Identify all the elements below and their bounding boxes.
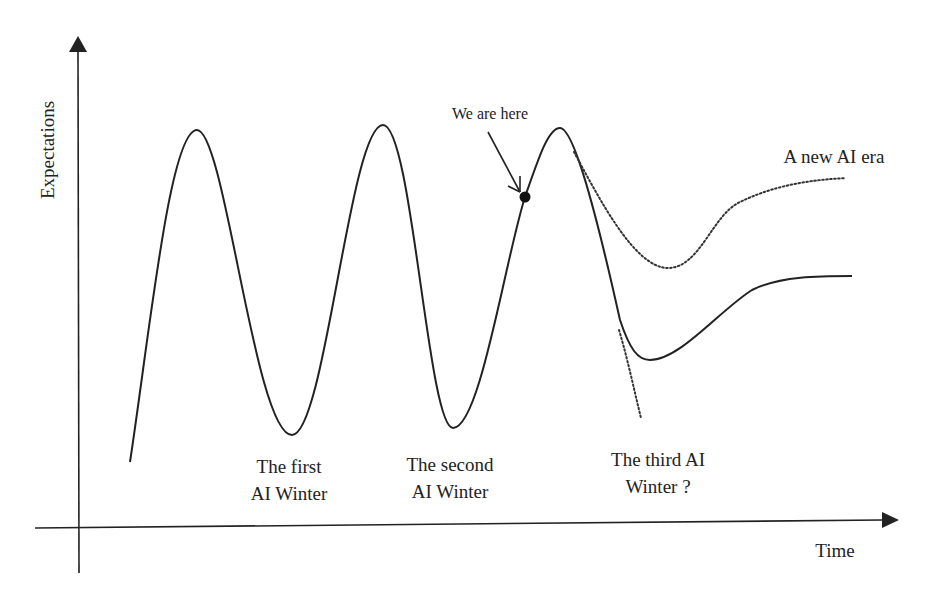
we-are-here-label: We are here [452, 105, 528, 122]
y-axis [69, 36, 87, 573]
new-ai-era-label: A new AI era [784, 146, 885, 167]
x-axis-label: Time [815, 540, 854, 561]
y-axis-label: Expectations [37, 101, 58, 199]
hype-cycle-diagram: Expectations Time We are here A new AI e… [0, 0, 932, 602]
first-winter-label-line2: AI Winter [251, 483, 328, 504]
expectations-curve [130, 125, 852, 462]
y-axis-arrow-icon [69, 36, 87, 52]
third-winter-label-line2: Winter ? [625, 476, 690, 497]
third-winter-label-line1: The third AI [611, 449, 705, 470]
we-are-here-marker [488, 132, 531, 203]
new-ai-era-curve [574, 152, 846, 268]
second-winter-label-line1: The second [406, 454, 494, 475]
first-winter-label-line1: The first [257, 456, 323, 477]
x-axis-arrow-icon [882, 512, 899, 528]
second-winter-label-line2: AI Winter [412, 481, 489, 502]
x-axis [35, 512, 899, 528]
current-position-dot [520, 192, 531, 203]
